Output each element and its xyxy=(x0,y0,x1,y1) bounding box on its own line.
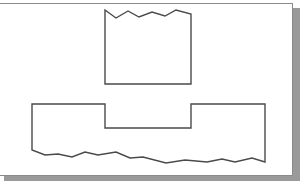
lower-notched-block-broken-bottom xyxy=(32,104,265,163)
technical-drawing xyxy=(0,0,302,182)
upper-block-broken-top xyxy=(105,10,191,84)
